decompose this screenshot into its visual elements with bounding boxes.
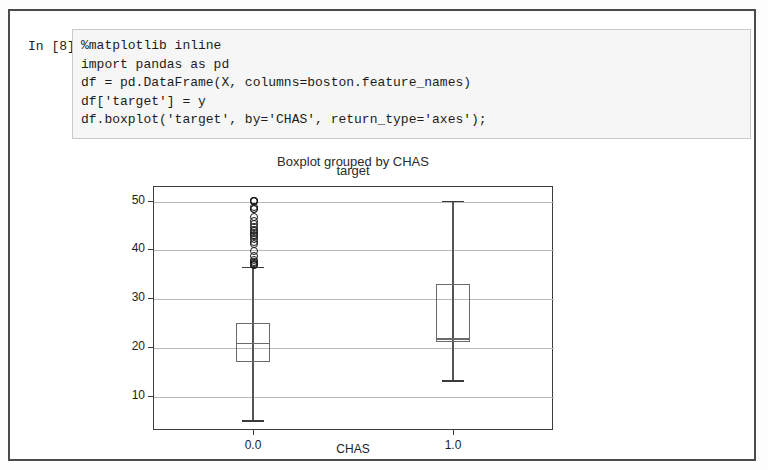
y-tick-mark xyxy=(148,298,153,299)
box-cap-lower xyxy=(442,380,464,382)
plot-axes xyxy=(153,186,553,430)
y-tick-mark xyxy=(148,201,153,202)
y-tick-label-40: 40 xyxy=(107,241,145,255)
box-cap-lower xyxy=(242,420,264,422)
box-median-line xyxy=(236,343,270,344)
code-line-3: df = pd.DataFrame(X, columns=boston.feat… xyxy=(81,74,742,93)
chart-title: target xyxy=(10,163,696,178)
box-outlier-point xyxy=(250,197,258,205)
code-line-2: import pandas as pd xyxy=(81,56,742,75)
grid-line-y-40 xyxy=(154,250,554,251)
x-tick-mark xyxy=(453,430,454,435)
box-iqr xyxy=(436,284,470,343)
code-line-4: df['target'] = y xyxy=(81,93,742,112)
grid-line-y-20 xyxy=(154,348,554,349)
y-tick-mark xyxy=(148,249,153,250)
x-tick-mark xyxy=(253,430,254,435)
notebook-cell[interactable]: In [8]: %matplotlib inline import pandas… xyxy=(8,9,756,461)
grid-line-y-50 xyxy=(154,202,554,203)
box-cap-upper xyxy=(442,201,464,203)
code-line-5: df.boxplot('target', by='CHAS', return_t… xyxy=(81,111,742,130)
box-outlier-point xyxy=(250,247,258,255)
code-editor[interactable]: %matplotlib inline import pandas as pd d… xyxy=(72,29,751,139)
x-axis-label: CHAS xyxy=(10,442,696,456)
y-tick-label-10: 10 xyxy=(107,388,145,402)
grid-line-y-30 xyxy=(154,299,554,300)
y-tick-label-30: 30 xyxy=(107,290,145,304)
y-tick-mark xyxy=(148,396,153,397)
box-outlier-point xyxy=(250,213,258,221)
grid-line-y-10 xyxy=(154,397,554,398)
y-tick-mark xyxy=(148,347,153,348)
y-tick-label-20: 20 xyxy=(107,339,145,353)
code-line-1: %matplotlib inline xyxy=(81,37,742,56)
cell-output-figure: Boxplot grouped by CHAS target 102030405… xyxy=(10,142,758,460)
y-tick-label-50: 50 xyxy=(107,193,145,207)
box-median-line xyxy=(436,338,470,339)
